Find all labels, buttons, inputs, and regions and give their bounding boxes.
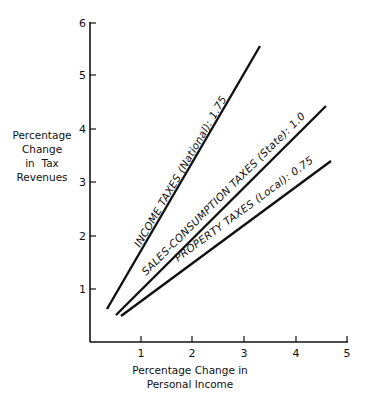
y-ticks <box>90 23 96 289</box>
x-title-line: Percentage Change in <box>115 363 265 377</box>
y-tick-label: 1 <box>79 283 86 296</box>
x-tick-label: 2 <box>189 347 196 360</box>
sales-tax-line <box>116 106 326 315</box>
x-tick-label: 3 <box>241 347 248 360</box>
x-ticks <box>141 336 347 342</box>
chart: 1 2 3 4 5 6 1 2 3 4 5 INCOME TAXES (Nati… <box>0 0 366 404</box>
y-tick-label: 4 <box>79 123 86 136</box>
y-tick-label: 3 <box>79 176 86 189</box>
x-axis-title: Percentage Change in Personal Income <box>115 363 265 391</box>
y-tick-label: 2 <box>79 230 86 243</box>
y-tick-label: 5 <box>79 69 86 82</box>
y-tick-label: 6 <box>79 17 86 30</box>
x-tick-label: 4 <box>293 347 300 360</box>
x-title-line: Personal Income <box>115 377 265 391</box>
x-tick-label: 1 <box>138 347 145 360</box>
x-tick-label: 5 <box>344 347 351 360</box>
